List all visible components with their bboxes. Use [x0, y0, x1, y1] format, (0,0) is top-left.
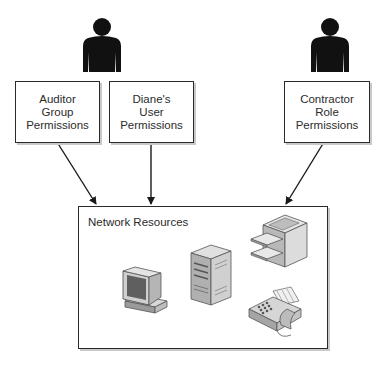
box-label-line: Diane's: [133, 93, 171, 106]
box-label-line: Group: [42, 106, 74, 119]
fax-machine-icon: [247, 285, 305, 343]
diane-user-permissions-box: Diane's User Permissions: [109, 81, 194, 143]
workstation-icon: [119, 265, 169, 317]
person-icon: [311, 18, 349, 72]
box-label-line: Role: [315, 106, 339, 119]
network-resources-title: Network Resources: [88, 216, 188, 228]
server-icon: [189, 241, 233, 307]
box-label-line: Auditor: [39, 93, 75, 106]
arrow-auditor-to-network: [57, 142, 96, 204]
network-resources-box: Network Resources: [78, 206, 328, 349]
arrow-contractor-to-network: [286, 142, 324, 204]
person-icon: [83, 18, 121, 72]
auditor-group-permissions-box: Auditor Group Permissions: [15, 81, 100, 143]
printer-icon: [249, 213, 311, 271]
box-label-line: Contractor: [300, 93, 354, 106]
box-label-line: User: [139, 106, 163, 119]
box-label-line: Permissions: [120, 119, 183, 132]
contractor-role-permissions-box: Contractor Role Permissions: [284, 81, 370, 143]
box-label-line: Permissions: [26, 119, 89, 132]
box-label-line: Permissions: [296, 119, 359, 132]
permissions-diagram: Auditor Group Permissions Diane's User P…: [0, 0, 386, 369]
